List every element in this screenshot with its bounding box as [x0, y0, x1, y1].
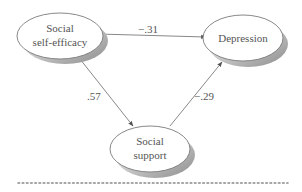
edge-support-to-depression: −.29: [170, 62, 222, 126]
node-label-line2: support: [134, 149, 167, 161]
edge-self-efficacy-to-support: .57: [80, 59, 133, 126]
edge-self-efficacy-to-depression: −.31: [98, 23, 206, 37]
edge-label: −.29: [194, 90, 214, 102]
node-social-support: Social support: [110, 126, 195, 178]
node-label-line1: Social: [46, 22, 74, 34]
edge-label: .57: [87, 90, 101, 102]
node-social-self-efficacy: Social self-efficacy: [17, 13, 108, 64]
node-depression: Depression: [203, 15, 288, 67]
node-label-line2: self-efficacy: [33, 36, 88, 48]
node-label-line1: Social: [136, 135, 164, 147]
node-label: Depression: [218, 32, 268, 44]
path-diagram: −.31 .57 −.29 Social self-efficacy Depre…: [0, 0, 302, 192]
edge-label: −.31: [138, 23, 158, 35]
